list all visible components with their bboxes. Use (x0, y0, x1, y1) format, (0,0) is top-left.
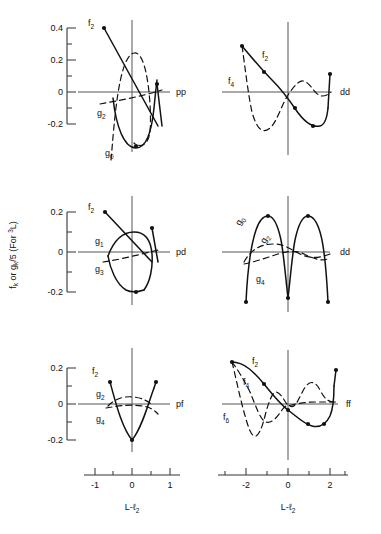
pp-curve-g0-solid (113, 80, 157, 148)
ff-curve-f2 (232, 362, 334, 427)
pd-y-spine (67, 212, 76, 292)
pp-label-f2: f2 (88, 18, 95, 30)
svg-text:fk or gk/5 (For 3L): fk or gk/5 (For 3L) (7, 221, 19, 289)
pp-ytick-2: 0 (58, 87, 63, 97)
pf-ytick-0: 0.2 (50, 363, 63, 373)
pp-ytick-3: -0.2 (47, 119, 63, 129)
left-xtick-0: -1 (91, 480, 99, 490)
pp-ytick-1: 0.2 (50, 55, 63, 65)
pd-curve-g1-lower (108, 256, 144, 292)
pd-ytick-1: 0 (58, 247, 63, 257)
pd-ytick-0: 0.2 (50, 207, 63, 217)
left-x-axis: -1 0 1 L-ℓ2 (84, 468, 180, 514)
pf-corner-label: pf (176, 399, 184, 409)
pp-corner-label: pp (176, 87, 186, 97)
pf-y-spine (67, 368, 76, 440)
left-x-axis-label: L-ℓ2 (125, 502, 140, 514)
pd-label-g1: g1 (95, 236, 104, 248)
dd-top-label-f2: f2 (262, 50, 269, 62)
pd-label-g3: g3 (95, 264, 104, 276)
y-axis-label: fk or gk/5 (For 3L) (7, 221, 19, 289)
y-axis-label-div: /5 (For (8, 233, 18, 262)
pp-y-spine (67, 28, 76, 124)
pp-label-g2: g2 (97, 108, 106, 120)
pd-label-f2: f2 (88, 202, 95, 214)
pf-label-f2: f2 (92, 366, 99, 378)
dd-top-curve-f2-tail (328, 74, 330, 108)
pp-label-g0: g0 (105, 148, 114, 160)
pd-curve-g1 (108, 232, 152, 290)
dd-top-curve-f4 (242, 46, 331, 131)
panel-dd-top: f2 f4 dd (222, 22, 350, 155)
pd-curve-labels: f2 g1 g3 (88, 202, 104, 276)
dd-top-label-f4: f4 (228, 76, 235, 88)
pd-ytick-2: -0.2 (47, 287, 63, 297)
pf-label-g4: g4 (96, 414, 105, 426)
ff-curve-f4 (232, 362, 334, 422)
right-xtick-2: 2 (327, 480, 332, 490)
right-x-axis: -2 0 2 L-ℓ2 (218, 468, 348, 514)
pd-corner-label: pd (176, 247, 186, 257)
pp-ytick-labels: 0.4 0.2 0 -0.2 (47, 23, 63, 129)
figure-svg: fk or gk/5 (For 3L) 0.4 0.2 0 -0.2 (0, 0, 381, 534)
panel-dd-mid: g0 g2 g4 dd (222, 196, 350, 312)
pf-ytick-2: -0.2 (47, 435, 63, 445)
dd-top-corner-label: dd (340, 87, 350, 97)
ff-label-f4: f4 (243, 377, 250, 389)
scientific-figure: fk or gk/5 (For 3L) 0.4 0.2 0 -0.2 (0, 0, 381, 534)
ff-curve-f2-tail (334, 370, 336, 386)
y-axis-label-L: L) (8, 221, 18, 229)
pf-ytick-1: 0 (58, 399, 63, 409)
pp-curve-f2 (104, 28, 158, 126)
panel-ff: f2 f4 f6 ff (222, 350, 351, 460)
dd-top-curve-f2 (242, 46, 328, 126)
left-xtick-2: 1 (167, 480, 172, 490)
y-axis-label-or: or (8, 270, 18, 283)
right-xtick-0: -2 (242, 480, 250, 490)
dd-mid-corner-label: dd (340, 247, 350, 257)
dd-top-markers (240, 44, 332, 128)
ff-curve-labels: f2 f4 f6 (223, 356, 259, 424)
pf-curve-labels: f2 g2 g4 (92, 366, 105, 426)
pd-curve-f2 (105, 212, 152, 262)
right-x-axis-label: L-ℓ2 (281, 502, 296, 514)
panel-pp: 0.4 0.2 0 -0.2 f2 g2 g0 pp (47, 18, 186, 160)
ff-label-f6: f6 (223, 412, 230, 424)
dd-mid-label-g4: g4 (256, 274, 265, 286)
pd-ytick-labels: 0.2 0 -0.2 (47, 207, 63, 297)
pf-label-g2: g2 (96, 389, 105, 401)
panel-pf: 0.2 0 -0.2 f2 g2 g4 pf (47, 348, 184, 452)
dd-mid-curve-labels: g0 g2 g4 (233, 214, 272, 285)
left-xtick-1: 0 (129, 480, 134, 490)
pf-markers (108, 380, 158, 442)
ff-corner-label: ff (346, 399, 351, 409)
right-xtick-1: 0 (285, 480, 290, 490)
pp-ytick-0: 0.4 (50, 23, 63, 33)
dd-mid-label-g0: g0 (233, 214, 247, 228)
pf-ytick-labels: 0.2 0 -0.2 (47, 363, 63, 445)
panel-pd: 0.2 0 -0.2 f2 g1 g3 pd (47, 196, 186, 305)
ff-label-f2: f2 (252, 356, 259, 368)
